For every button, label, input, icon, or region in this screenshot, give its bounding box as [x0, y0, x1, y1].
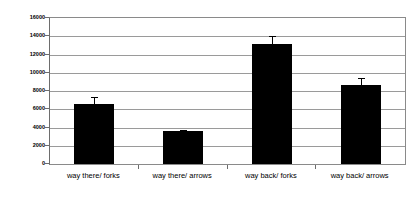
x-axis-separator	[227, 165, 228, 169]
y-axis-tick-label: 16000	[1, 14, 45, 20]
y-axis-tick-label: 4000	[1, 124, 45, 130]
error-bar-cap	[180, 130, 187, 131]
x-axis-category-label: way back/ arrows	[315, 171, 404, 180]
x-axis-category-label: way there/ forks	[49, 171, 138, 180]
bar	[252, 44, 292, 164]
bar	[341, 85, 381, 164]
y-axis-tick-label: 2000	[1, 142, 45, 148]
bar-chart: RT in ms 0200040006000800010000120001400…	[0, 0, 420, 205]
gridline	[50, 55, 405, 56]
x-axis-category-label: way there/ arrows	[138, 171, 227, 180]
x-axis-separator	[138, 165, 139, 169]
error-bar-cap	[91, 97, 98, 98]
y-axis-tick-label: 12000	[1, 51, 45, 57]
y-axis-tick-label: 0	[1, 160, 45, 166]
y-axis-tick-label: 14000	[1, 32, 45, 38]
bar	[74, 104, 114, 164]
y-axis-tick-labels: 0200040006000800010000120001400016000	[0, 17, 45, 165]
x-axis-category-label: way back/ forks	[227, 171, 316, 180]
error-bar-line	[272, 36, 273, 44]
y-axis-tick-label: 10000	[1, 69, 45, 75]
error-bar-line	[94, 97, 95, 104]
x-axis-category-labels: way there/ forksway there/ arrowsway bac…	[49, 171, 406, 187]
y-axis-tick-label: 8000	[1, 87, 45, 93]
error-bar-cap	[358, 78, 365, 79]
gridline	[50, 73, 405, 74]
y-axis-tick-label: 6000	[1, 105, 45, 111]
x-axis-separator	[315, 165, 316, 169]
error-bar-cap	[269, 36, 276, 37]
plot-area	[49, 17, 406, 165]
bar	[163, 131, 203, 164]
gridline	[50, 36, 405, 37]
